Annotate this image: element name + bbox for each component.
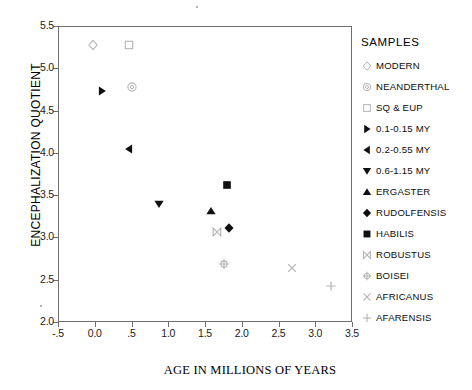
- x-axis-tick-label: .5: [112, 327, 152, 339]
- open-square-icon: [358, 103, 376, 113]
- scatter-plot-figure: 2.02.53.03.54.04.55.05.5-.50.0.51.01.52.…: [0, 0, 472, 390]
- left-triangle-icon: [358, 145, 376, 155]
- circled-dot-icon: [358, 82, 376, 92]
- data-point-0-2-0-55-my: [123, 143, 134, 154]
- legend-item-label: ROBUSTUS: [376, 249, 431, 260]
- legend-item-rudolfensis[interactable]: RUDOLFENSIS: [358, 202, 472, 223]
- speck-artifact: [40, 305, 42, 307]
- legend-item-label: ERGASTER: [376, 186, 430, 197]
- x-axis-tick-label: 3.5: [332, 327, 372, 339]
- legend-title: SAMPLES: [361, 36, 472, 48]
- legend-item-label: HABILIS: [376, 228, 414, 239]
- data-point-rudolfensis: [223, 223, 234, 234]
- x-axis-tick-label: -.5: [38, 327, 78, 339]
- data-point-0-1-0-15-my: [97, 86, 108, 97]
- filled-square-icon: [358, 229, 376, 239]
- legend-item-label: 0.2-0.55 MY: [376, 144, 430, 155]
- legend-item-label: AFARENSIS: [376, 312, 432, 323]
- down-triangle-icon: [358, 166, 376, 176]
- bowtie-icon: [358, 250, 376, 260]
- legend-item-label: NEANDERTHAL: [376, 81, 449, 92]
- legend-item-ergaster[interactable]: ERGASTER: [358, 181, 472, 202]
- legend-item-habilis[interactable]: HABILIS: [358, 223, 472, 244]
- data-point-africanus: [286, 262, 297, 273]
- legend: SAMPLES MODERNNEANDERTHALSQ & EUP0.1-0.1…: [358, 36, 472, 328]
- x-axis-tick-label: 2.5: [259, 327, 299, 339]
- plot-area: [58, 26, 352, 322]
- x-cross-icon: [358, 292, 376, 302]
- legend-item-0-1-0-15-my[interactable]: 0.1-0.15 MY: [358, 118, 472, 139]
- y-axis-title: ENCEPHALIZATION QUOTIENT: [29, 35, 43, 275]
- legend-item-label: RUDOLFENSIS: [376, 207, 446, 218]
- legend-item-label: BOISEI: [376, 270, 409, 281]
- y-axis-tick-label: 2.0: [14, 315, 54, 327]
- data-point-habilis: [222, 179, 233, 190]
- x-axis-tick-label: 1.0: [148, 327, 188, 339]
- legend-rows: MODERNNEANDERTHALSQ & EUP0.1-0.15 MY0.2-…: [358, 55, 472, 328]
- y-axis-tick-label: 5.5: [14, 19, 54, 31]
- legend-item-label: MODERN: [376, 60, 420, 71]
- legend-item-label: AFRICANUS: [376, 291, 433, 302]
- legend-item-africanus[interactable]: AFRICANUS: [358, 286, 472, 307]
- circled-plus-icon: [358, 271, 376, 281]
- x-axis-title: AGE IN MILLIONS OF YEARS: [120, 363, 380, 378]
- up-triangle-icon: [358, 187, 376, 197]
- x-axis-tick-label: 0.0: [75, 327, 115, 339]
- legend-item-afarensis[interactable]: AFARENSIS: [358, 307, 472, 328]
- data-point-ergaster: [205, 206, 216, 217]
- data-point-neanderthal: [126, 81, 137, 92]
- legend-item-modern[interactable]: MODERN: [358, 55, 472, 76]
- legend-item-label: SQ & EUP: [376, 102, 423, 113]
- right-triangle-icon: [358, 124, 376, 134]
- x-axis-tick-label: 2.0: [222, 327, 262, 339]
- plus-cross-icon: [358, 313, 376, 323]
- data-point-robustus: [211, 226, 222, 237]
- open-diamond-icon: [358, 61, 376, 71]
- data-point-0-6-1-15-my: [154, 198, 165, 209]
- filled-diamond-icon: [358, 208, 376, 218]
- x-axis-tick-label: 3.0: [295, 327, 335, 339]
- data-point-sq-eup: [123, 39, 134, 50]
- data-point-boisei: [219, 258, 230, 269]
- data-point-afarensis: [325, 280, 336, 291]
- legend-item-neanderthal[interactable]: NEANDERTHAL: [358, 76, 472, 97]
- legend-item-robustus[interactable]: ROBUSTUS: [358, 244, 472, 265]
- legend-item-0-6-1-15-my[interactable]: 0.6-1.15 MY: [358, 160, 472, 181]
- legend-item-boisei[interactable]: BOISEI: [358, 265, 472, 286]
- legend-item-label: 0.1-0.15 MY: [376, 123, 430, 134]
- speck-artifact: [196, 6, 198, 8]
- legend-item-0-2-0-55-my[interactable]: 0.2-0.55 MY: [358, 139, 472, 160]
- legend-item-sq-eup[interactable]: SQ & EUP: [358, 97, 472, 118]
- x-axis-tick-label: 1.5: [185, 327, 225, 339]
- legend-item-label: 0.6-1.15 MY: [376, 165, 430, 176]
- data-point-modern: [87, 39, 98, 50]
